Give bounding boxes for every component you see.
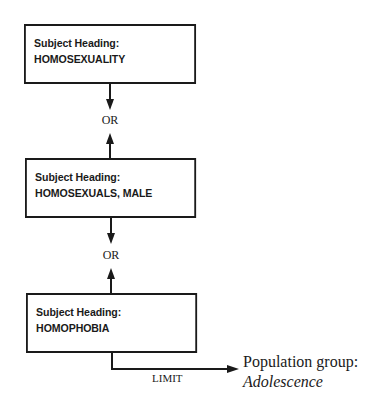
subject-heading-box-homosexuality: Subject Heading: HOMOSEXUALITY (24, 24, 196, 84)
limit-arrow (112, 352, 239, 373)
or-label-1: OR (90, 113, 130, 128)
arrow-up-1 (106, 133, 114, 158)
population-group-label: Population group: (243, 353, 358, 370)
limit-label: LIMIT (152, 372, 183, 384)
heading-label: Subject Heading: (36, 304, 195, 320)
arrow-down-1 (106, 84, 114, 110)
population-group-value: Adolescence (243, 372, 358, 392)
heading-term: HOMOSEXUALS, MALE (35, 185, 194, 201)
or-label-2: OR (91, 248, 131, 263)
subject-heading-box-homophobia: Subject Heading: HOMOPHOBIA (26, 293, 197, 353)
heading-label: Subject Heading: (34, 35, 194, 51)
heading-term: HOMOSEXUALITY (34, 51, 194, 67)
subject-heading-box-homosexuals-male: Subject Heading: HOMOSEXUALS, MALE (25, 158, 196, 218)
population-group: Population group: Adolescence (243, 352, 358, 392)
arrow-up-2 (107, 268, 115, 293)
heading-label: Subject Heading: (35, 169, 194, 185)
arrow-down-2 (107, 218, 115, 244)
heading-term: HOMOPHOBIA (36, 320, 195, 336)
